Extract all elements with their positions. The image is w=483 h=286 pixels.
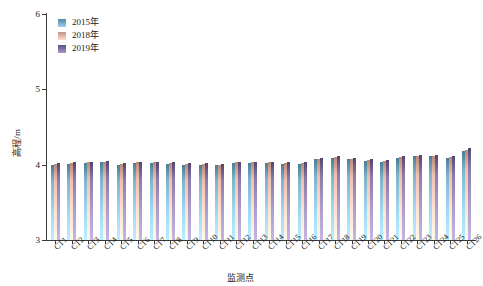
bar [370, 159, 373, 240]
bar-group [461, 14, 472, 240]
bar-group [247, 14, 258, 240]
bar [73, 162, 76, 240]
y-tick-mark [42, 240, 47, 241]
bar-group [231, 14, 242, 240]
bar [271, 162, 274, 240]
legend-label: 2019年 [72, 44, 99, 53]
bar [320, 158, 323, 240]
bar [57, 163, 60, 240]
bar [452, 156, 455, 240]
bar-series-group [47, 14, 475, 240]
bar [402, 156, 405, 240]
bar [287, 162, 290, 240]
bar-group [395, 14, 406, 240]
bar-group [99, 14, 110, 240]
legend-label: 2015年 [72, 18, 99, 27]
y-tick-label: 3 [36, 236, 41, 245]
bar [353, 158, 356, 240]
bar-group [379, 14, 390, 240]
bar [254, 162, 257, 240]
legend-label: 2018年 [72, 31, 99, 40]
bar [386, 160, 389, 240]
bar [337, 156, 340, 240]
x-axis-title: 监测点 [0, 271, 481, 284]
bar-group [363, 14, 374, 240]
bar-group [346, 14, 357, 240]
y-tick-label: 6 [36, 10, 41, 19]
bar-group [116, 14, 127, 240]
bar [205, 163, 208, 240]
bar [238, 162, 241, 240]
y-tick-label: 5 [36, 85, 41, 94]
bar-group [165, 14, 176, 240]
bar [419, 155, 422, 240]
legend-item: 2018年 [58, 31, 99, 40]
bar [156, 162, 159, 240]
y-tick-label: 4 [36, 160, 41, 169]
bar [435, 155, 438, 240]
bar-group [198, 14, 209, 240]
bar [468, 148, 471, 240]
bar-group [428, 14, 439, 240]
bar-group [412, 14, 423, 240]
bar [304, 162, 307, 240]
y-axis-title: 高程/m [10, 129, 23, 158]
bar [139, 162, 142, 240]
bar-group [132, 14, 143, 240]
legend-swatch-icon [58, 19, 66, 27]
bar-group [297, 14, 308, 240]
bar [221, 164, 224, 240]
bar [106, 161, 109, 240]
bar-group [313, 14, 324, 240]
bar-group [280, 14, 291, 240]
bar-group [149, 14, 160, 240]
plot-area: 3456 [47, 14, 475, 240]
legend-swatch-icon [58, 32, 66, 40]
legend-item: 2015年 [58, 18, 99, 27]
bar-group [181, 14, 192, 240]
bar-group [214, 14, 225, 240]
bar-group [445, 14, 456, 240]
legend-item: 2019年 [58, 44, 99, 53]
bar [188, 163, 191, 240]
bar [90, 162, 93, 240]
legend-swatch-icon [58, 45, 66, 53]
bar-group [264, 14, 275, 240]
chart-legend: 2015年2018年2019年 [58, 18, 99, 53]
bar [172, 162, 175, 240]
bar-group [330, 14, 341, 240]
bar [123, 163, 126, 240]
